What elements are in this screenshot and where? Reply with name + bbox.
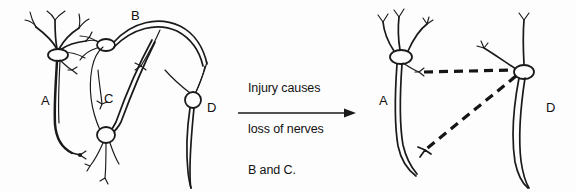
neuron-c-process-1 (90, 143, 103, 166)
label-left-d: D (207, 100, 216, 115)
neuron-c-left (85, 47, 119, 184)
neuron-a-soma-right (390, 50, 412, 64)
label-left-b: B (131, 8, 140, 23)
neuron-c-dendrite-arc (90, 47, 103, 130)
neuron-a-terminal-fork-left (80, 151, 86, 159)
neuron-c-process-3 (110, 143, 119, 164)
neuron-a-collateral-terminal-right (415, 68, 424, 76)
neuron-a-right-dendrite-1 (383, 22, 394, 51)
transition-arrow-head (344, 109, 356, 118)
caption-line-1: Injury causes (248, 82, 324, 96)
neuron-a-axon-outer-right (395, 64, 416, 176)
neuron-a-right-dendrite-2 (398, 17, 400, 50)
neuron-d-left (165, 62, 207, 188)
caption-line-3: B and C. (248, 164, 324, 178)
caption-line-2: loss of nerves (248, 123, 324, 137)
neuron-c-process-2-fork (100, 178, 108, 184)
neuron-d-right-dendrite-up (523, 20, 524, 64)
lost-nerve-path-upper (424, 70, 514, 72)
neuron-d-dendrite-2-left (165, 70, 190, 93)
neuron-a-right-dendrite-3 (408, 24, 427, 51)
neuron-a-collateral-right (403, 63, 419, 72)
right-panel-injured-circuit: A D (378, 9, 555, 188)
neuron-a-axon-inner-left (59, 61, 60, 123)
neuron-a-left (25, 11, 97, 159)
neuron-c-soma-left (97, 127, 115, 143)
neuron-injury-figure: A B C D (0, 0, 576, 192)
neuron-d-dendrite-left (196, 62, 207, 92)
neuron-d-right-dendrite-up-fork (519, 13, 529, 20)
neuron-a-axon-inner-right (400, 64, 417, 174)
neuron-d-axon-inner-left (190, 108, 194, 188)
neuron-a-collateral-left (60, 60, 72, 70)
neuron-a-right-dendrite-3-fork (423, 17, 433, 24)
neuron-d-right-dendrite-left (484, 48, 516, 69)
neuron-b-branch-left (141, 30, 160, 66)
neuron-d-right (477, 13, 534, 188)
label-left-a: A (41, 93, 50, 108)
neuron-b-soma-left (97, 39, 115, 51)
neuron-d-soma-right (514, 65, 534, 79)
label-right-d: D (546, 100, 555, 115)
neuron-d-axon-inner-right (520, 78, 529, 188)
label-right-a: A (379, 93, 388, 108)
neuron-a-right-dendrite-2-fork (394, 9, 404, 17)
neuron-d-right-dendrite-left-fork (477, 41, 488, 48)
neuron-c-process-2 (105, 143, 106, 178)
neuron-c-process-1-fork (85, 164, 90, 171)
label-left-c: C (104, 91, 113, 106)
neuron-a-axon-left (55, 61, 72, 153)
lost-nerve-dashed-paths (418, 70, 516, 157)
caption-block: Injury causes loss of nerves B and C. (248, 55, 324, 192)
neuron-b-axon-to-c-outer (107, 40, 152, 134)
lost-nerve-path-lower (425, 76, 516, 150)
neuron-a-right-dendrite-1-fork (378, 14, 388, 22)
neuron-a-soma-left (48, 49, 68, 61)
left-panel-intact-circuit: A B C D (25, 8, 216, 188)
neuron-d-soma-left (185, 92, 201, 108)
neuron-c-branch-left (98, 70, 102, 104)
